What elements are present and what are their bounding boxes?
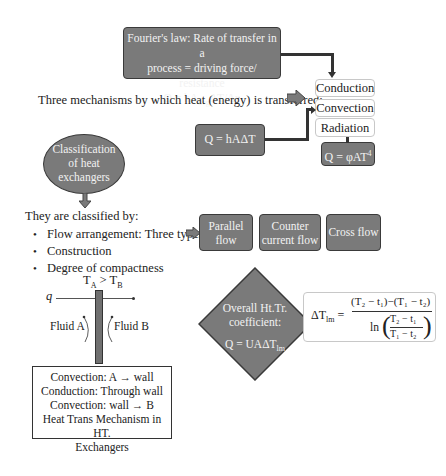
- block-arrow-right-icon: [186, 227, 200, 239]
- fluid-b-flow-arrow-icon: [104, 314, 116, 344]
- flow-type-counter-current: Counter current flow: [259, 214, 321, 251]
- heat-flux-end-dot: [132, 297, 135, 300]
- bullet-flow-arrangement: Flow arrangement: Three types: [25, 226, 203, 243]
- arrowhead-icon: [311, 106, 316, 114]
- connector-fourier: [281, 53, 334, 56]
- bullet-construction: Construction: [25, 243, 203, 260]
- block-arrow-right-icon: [287, 90, 305, 106]
- fluid-b-label: Fluid B: [114, 320, 149, 332]
- lmtd-lhs: ΔTlm =: [311, 308, 344, 324]
- fourier-line-2: process = driving force/ resistance: [124, 61, 280, 91]
- lmtd-inner-num: T₂ − t₁: [390, 313, 417, 324]
- flow-type-cross: Cross flow: [326, 214, 381, 251]
- overall-coefficient-text: Overall Ht.Tr. coefficient: Q = UAΔTlm: [215, 301, 295, 356]
- wall: [95, 290, 103, 364]
- lmtd-ln: ln: [370, 321, 379, 333]
- classification-bullets: Flow arrangement: Three types Constructi…: [25, 226, 203, 277]
- arrowhead-icon: [328, 72, 336, 78]
- mechanism-line-3: Convection: wall → B: [33, 398, 171, 412]
- temperature-condition: TA > TB: [83, 273, 122, 290]
- lmtd-equation-box: ΔTlm = (T₂ − t₁)−(T₁ − t₂) ln ( T₂ − t₁ …: [303, 292, 436, 342]
- mechanism-conduction: Conduction: [315, 79, 375, 97]
- classification-oval: Classification of heat exchangers: [43, 134, 125, 194]
- fourier-line-1: Fourier's law: Rate of transfer in a: [124, 31, 280, 61]
- mechanism-line-2: Conduction: Through wall: [33, 384, 171, 398]
- fourier-law-box: Fourier's law: Rate of transfer in a pro…: [123, 27, 281, 79]
- mechanism-convection: Convection: [315, 99, 375, 117]
- mechanism-line-4: Heat Trans Mechanism in HT.: [33, 412, 171, 440]
- convection-equation-box: Q = hAΔT: [195, 124, 265, 156]
- heat-flux-label: q: [46, 289, 52, 304]
- classification-intro: They are classified by:: [25, 209, 139, 224]
- arrow-down-icon: [79, 193, 91, 208]
- fraction-bar: [352, 311, 432, 312]
- connector-convection: [265, 138, 308, 141]
- flow-type-parallel: Parallel flow: [199, 214, 253, 251]
- mechanism-line-1: Convection: A → wall: [33, 370, 171, 384]
- fluid-a-flow-arrow-icon: [80, 314, 92, 344]
- connector-radiation: [346, 137, 349, 143]
- mechanism-line-5: Exchangers: [33, 440, 171, 454]
- lmtd-numerator: (T₂ − t₁)−(T₁ − t₂): [351, 295, 430, 307]
- connector-convection-up: [306, 108, 309, 141]
- heat-transfer-mechanism-box: Convection: A → wall Conduction: Through…: [32, 366, 172, 439]
- lmtd-paren-right: ): [423, 312, 432, 340]
- mechanism-radiation: Radiation: [315, 118, 375, 137]
- connector-fourier-down: [331, 53, 334, 73]
- mechanisms-intro: Three mechanisms by which heat (energy) …: [38, 93, 323, 108]
- lmtd-inner-den: T₁ − t₂: [390, 328, 417, 339]
- radiation-equation-box: Q = φAT4: [321, 142, 375, 166]
